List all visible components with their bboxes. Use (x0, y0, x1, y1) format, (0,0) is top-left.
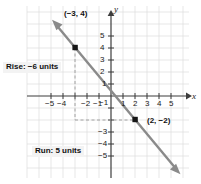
x-tick-neg2: −2 (81, 100, 90, 108)
point-marker-b (132, 117, 137, 122)
line-arrow-lower (170, 164, 181, 174)
x-tick-neg5: −5 (45, 100, 54, 108)
x-tick-neg4: −4 (57, 100, 66, 108)
y-tick-4: 4 (100, 44, 104, 52)
y-tick-neg4: −4 (98, 140, 107, 148)
point-label-b: (2, −2) (147, 117, 170, 125)
x-axis-label: x (192, 92, 196, 101)
y-tick-3: 3 (100, 56, 104, 64)
point-label-a: (−3, 4) (64, 10, 87, 18)
x-tick-4: 4 (157, 100, 161, 108)
graph-figure: y x −5 −4 −2 −1 1 2 3 4 5 5 4 3 2 1 −1 −… (0, 0, 201, 184)
run-annotation: Run: 5 units (32, 146, 84, 157)
x-tick-2: 2 (133, 100, 137, 108)
y-tick-neg5: −5 (98, 152, 107, 160)
x-tick-3: 3 (145, 100, 149, 108)
rise-annotation: Rise: −6 units (3, 62, 61, 73)
y-tick-neg3: −3 (98, 128, 107, 136)
line-arrow-upper (52, 20, 63, 30)
point-marker-a (72, 45, 77, 50)
x-tick-1: 1 (121, 100, 125, 108)
y-tick-5: 5 (100, 32, 104, 40)
y-axis-label: y (114, 5, 118, 14)
y-tick-1: 1 (102, 80, 106, 88)
x-tick-5: 5 (169, 100, 173, 108)
y-tick-neg1: −1 (99, 99, 108, 107)
y-tick-2: 2 (100, 68, 104, 76)
